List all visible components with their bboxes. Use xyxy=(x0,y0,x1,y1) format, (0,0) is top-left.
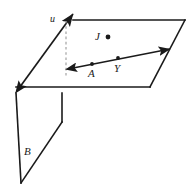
label-plane-b: B xyxy=(24,146,31,157)
label-vector-u: u xyxy=(50,14,55,24)
vertical-plane xyxy=(16,93,62,183)
label-point-j: J xyxy=(95,31,100,42)
point-j-dot xyxy=(106,35,111,40)
geometry-figure: u J A Y B xyxy=(0,0,194,196)
point-a-dot xyxy=(90,62,94,66)
label-point-a: A xyxy=(88,68,95,79)
label-point-y: Y xyxy=(114,63,120,74)
horizontal-plane xyxy=(16,20,185,87)
edge-vector-u xyxy=(17,14,73,91)
point-y-dot xyxy=(116,56,120,60)
